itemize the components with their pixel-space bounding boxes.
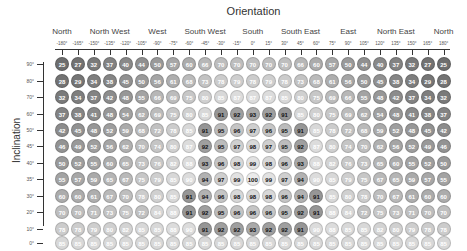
heatmap-cell: 67 xyxy=(373,172,387,186)
x-tick-label: -15° xyxy=(233,41,241,46)
heatmap-cell: 54 xyxy=(119,107,133,121)
heatmap-cell: 70 xyxy=(373,189,387,203)
heatmap-cell: 56 xyxy=(389,139,403,153)
heatmap-cell: 91 xyxy=(198,123,212,137)
heatmap-cell: 80 xyxy=(166,139,180,153)
direction-label: South East xyxy=(281,27,320,36)
heatmap-cell: 52 xyxy=(103,123,117,137)
x-tick-mark xyxy=(78,49,79,55)
heatmap-cell: 91 xyxy=(294,123,308,137)
heatmap-cell: 87 xyxy=(309,139,323,153)
heatmap-cell: 55 xyxy=(437,172,451,186)
x-tick-mark xyxy=(205,49,206,55)
heatmap-cell: 85 xyxy=(373,236,387,250)
heatmap-cell: 85 xyxy=(230,236,244,250)
y-tick-label: 30° xyxy=(14,193,34,199)
heatmap-cell: 92 xyxy=(294,139,308,153)
heatmap-cell: 85 xyxy=(389,236,403,250)
heatmap-cell: 97 xyxy=(246,123,260,137)
heatmap-cell: 96 xyxy=(214,156,228,170)
heatmap-cell: 91 xyxy=(309,189,323,203)
heatmap-cell: 82 xyxy=(373,222,387,236)
heatmap-cell: 73 xyxy=(198,74,212,88)
heatmap-cell: 85 xyxy=(166,236,180,250)
heatmap-cell: 95 xyxy=(278,139,292,153)
heatmap-cell: 70 xyxy=(262,57,276,71)
heatmap-cell: 32 xyxy=(87,57,101,71)
heatmap-cell: 67 xyxy=(389,189,403,203)
y-tick-label: 40° xyxy=(14,160,34,166)
heatmap-cell: 85 xyxy=(182,236,196,250)
heatmap-cell: 69 xyxy=(150,107,164,121)
x-tick-mark xyxy=(126,49,127,55)
x-tick-label: -165° xyxy=(72,41,83,46)
heatmap-cell: 50 xyxy=(341,57,355,71)
x-tick-mark xyxy=(62,49,63,55)
heatmap-cell: 74 xyxy=(150,139,164,153)
heatmap-cell: 85 xyxy=(214,236,228,250)
heatmap-cell: 74 xyxy=(341,139,355,153)
y-tick-mark xyxy=(37,130,43,131)
heatmap-cell: 67 xyxy=(119,172,133,186)
heatmap-cell: 84 xyxy=(341,205,355,219)
y-tick-mark xyxy=(37,114,43,115)
heatmap-cell: 73 xyxy=(135,156,149,170)
heatmap-cell: 92 xyxy=(278,222,292,236)
heatmap-cell: 85 xyxy=(405,236,419,250)
heatmap-cell: 66 xyxy=(150,90,164,104)
heatmap-cell: 85 xyxy=(294,236,308,250)
heatmap-cell: 98 xyxy=(262,189,276,203)
heatmap-cell: 85 xyxy=(135,222,149,236)
heatmap-cell: 91 xyxy=(182,189,196,203)
heatmap-cell: 68 xyxy=(182,74,196,88)
heatmap-cell: 78 xyxy=(55,222,69,236)
heatmap-cell: 85 xyxy=(87,236,101,250)
heatmap-cell: 71 xyxy=(87,205,101,219)
heatmap-cell: 91 xyxy=(294,222,308,236)
heatmap-cell: 70 xyxy=(55,205,69,219)
heatmap-cell: 91 xyxy=(182,205,196,219)
heatmap-cell: 75 xyxy=(373,205,387,219)
heatmap-cell: 92 xyxy=(294,205,308,219)
y-tick-mark xyxy=(37,163,43,164)
heatmap-cell: 90 xyxy=(309,172,323,186)
heatmap-cell: 61 xyxy=(166,74,180,88)
y-tick-mark xyxy=(37,196,43,197)
heatmap-cell: 59 xyxy=(405,172,419,186)
heatmap-cell: 99 xyxy=(262,172,276,186)
heatmap-cell: 62 xyxy=(357,107,371,121)
heatmap-cell: 75 xyxy=(357,172,371,186)
heatmap-cell: 88 xyxy=(325,205,339,219)
heatmap-cell: 85 xyxy=(55,236,69,250)
heatmap-cell: 52 xyxy=(421,156,435,170)
heatmap-cell: 70 xyxy=(357,139,371,153)
heatmap-cell: 75 xyxy=(119,205,133,219)
x-tick-label: 75° xyxy=(329,41,336,46)
x-tick-mark xyxy=(285,49,286,55)
x-tick-mark xyxy=(364,49,365,55)
heatmap-cell: 78 xyxy=(437,222,451,236)
heatmap-cell: 95 xyxy=(214,123,228,137)
y-tick-label: 10° xyxy=(14,226,34,232)
heatmap-cell: 85 xyxy=(150,222,164,236)
heatmap-cell: 42 xyxy=(437,123,451,137)
heatmap-cell: 87 xyxy=(230,90,244,104)
heatmap-cell: 65 xyxy=(119,156,133,170)
heatmap-cell: 55 xyxy=(135,90,149,104)
heatmap-cell: 90 xyxy=(182,222,196,236)
heatmap-cell: 68 xyxy=(357,123,371,137)
x-tick-mark xyxy=(428,49,429,55)
heatmap-cell: 25 xyxy=(437,57,451,71)
heatmap-cell: 96 xyxy=(278,189,292,203)
heatmap-cell: 79 xyxy=(87,222,101,236)
heatmap-cell: 80 xyxy=(389,222,403,236)
heatmap-cell: 57 xyxy=(325,57,339,71)
heatmap-cell: 80 xyxy=(198,90,212,104)
heatmap-cell: 70 xyxy=(71,205,85,219)
heatmap-cell: 57 xyxy=(166,57,180,71)
heatmap-cell: 85 xyxy=(135,236,149,250)
heatmap-cell: 85 xyxy=(357,222,371,236)
heatmap-cell: 85 xyxy=(325,172,339,186)
heatmap-cell: 85 xyxy=(341,236,355,250)
heatmap-cell: 28 xyxy=(55,74,69,88)
